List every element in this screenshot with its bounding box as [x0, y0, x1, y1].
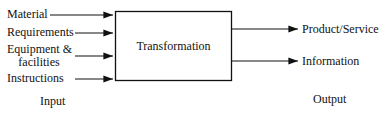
output-information: Information: [302, 55, 359, 68]
input-equipment-line2: facilities: [7, 56, 71, 69]
input-equipment-facilities: Equipment & facilities: [7, 43, 71, 69]
output-caption: Output: [313, 93, 346, 106]
input-caption: Input: [40, 95, 65, 108]
output-product-service: Product/Service: [302, 23, 379, 36]
input-requirements: Requirements: [7, 26, 74, 39]
input-material: Material: [7, 8, 48, 21]
input-instructions: Instructions: [7, 72, 64, 85]
process-label: Transformation: [116, 40, 231, 53]
